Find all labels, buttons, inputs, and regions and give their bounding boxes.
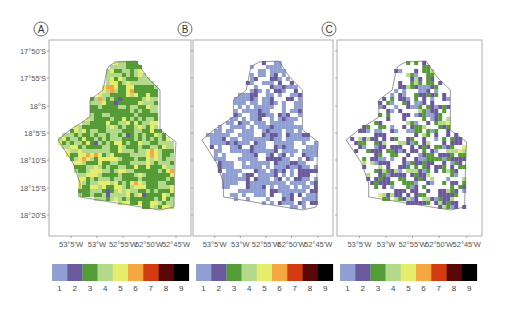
raster-cell-class-3 — [422, 65, 426, 69]
raster-cell-class-5 — [66, 149, 70, 153]
raster-cell-class-1 — [262, 141, 266, 145]
raster-cell-class-2 — [414, 193, 418, 197]
raster-cell-class-3 — [86, 181, 90, 185]
raster-cell-class-3 — [106, 109, 110, 113]
raster-cell-class-1 — [274, 69, 278, 73]
raster-cell-class-1 — [406, 129, 410, 133]
legend-swatch-6 — [272, 264, 288, 281]
raster-cell-class-5 — [462, 145, 466, 149]
raster-cell-class-2 — [378, 149, 382, 153]
raster-cell-class-3 — [402, 177, 406, 181]
raster-cell-class-4 — [82, 149, 86, 153]
raster-cell-class-3 — [150, 181, 154, 185]
raster-cell-class-3 — [130, 165, 134, 169]
raster-cell-class-4 — [130, 109, 134, 113]
raster-cell-class-4 — [106, 81, 110, 85]
raster-cell-class-3 — [122, 97, 126, 101]
raster-cell-class-1 — [310, 197, 314, 201]
raster-cell-class-3 — [94, 193, 98, 197]
raster-cell-class-4 — [166, 161, 170, 165]
raster-cell-class-1 — [306, 165, 310, 169]
raster-cell-class-1 — [258, 165, 262, 169]
raster-cell-class-2 — [402, 113, 406, 117]
raster-cell-class-4 — [438, 201, 442, 205]
raster-cell-class-3 — [146, 89, 150, 93]
raster-cell-class-3 — [138, 105, 142, 109]
legend-label: 9 — [179, 284, 184, 293]
raster-cell-class-3 — [150, 133, 154, 137]
raster-cell-class-1 — [286, 117, 290, 121]
raster-cell-class-2 — [298, 193, 302, 197]
raster-cell-class-1 — [278, 133, 282, 137]
raster-cell-class-3 — [86, 125, 90, 129]
raster-cell-class-4 — [118, 173, 122, 177]
x-tick-label: 53°W — [88, 240, 107, 249]
raster-cell-class-3 — [114, 113, 118, 117]
raster-cell-class-2 — [278, 81, 282, 85]
raster-cell-class-2 — [406, 137, 410, 141]
raster-cell-class-1 — [306, 149, 310, 153]
raster-cell-class-4 — [122, 81, 126, 85]
raster-cell-class-1 — [410, 105, 414, 109]
raster-cell-class-1 — [230, 169, 234, 173]
x-tick-label: 52°50'W — [277, 240, 306, 249]
raster-cell-class-1 — [250, 77, 254, 81]
raster-cell-class-1 — [310, 193, 314, 197]
raster-cell-class-3 — [114, 77, 118, 81]
raster-cell-class-2 — [374, 177, 378, 181]
raster-cell-class-3 — [426, 73, 430, 77]
raster-cell-class-1 — [238, 105, 242, 109]
raster-cell-class-3 — [442, 169, 446, 173]
raster-cell-class-1 — [250, 165, 254, 169]
raster-cell-class-3 — [422, 145, 426, 149]
raster-cell-class-2 — [374, 149, 378, 153]
raster-cell-class-4 — [90, 101, 94, 105]
raster-cell-class-5 — [170, 185, 174, 189]
raster-cell-class-1 — [362, 145, 366, 149]
raster-cell-class-1 — [210, 137, 214, 141]
raster-cell-class-1 — [238, 133, 242, 137]
raster-cell-class-5 — [110, 153, 114, 157]
raster-cell-class-1 — [290, 149, 294, 153]
raster-cell-class-4 — [110, 73, 114, 77]
raster-cell-class-3 — [122, 157, 126, 161]
raster-cell-class-4 — [146, 117, 150, 121]
raster-cell-class-4 — [142, 149, 146, 153]
raster-cell-class-4 — [358, 137, 362, 141]
raster-cell-class-1 — [462, 189, 466, 193]
raster-cell-class-2 — [142, 193, 146, 197]
raster-cell-class-2 — [254, 89, 258, 93]
raster-cell-class-6 — [110, 85, 114, 89]
raster-cell-class-1 — [298, 157, 302, 161]
raster-cell-class-1 — [410, 141, 414, 145]
raster-cell-class-3 — [426, 201, 430, 205]
raster-cell-class-1 — [302, 141, 306, 145]
raster-cell-class-3 — [410, 85, 414, 89]
legend-swatch-8 — [158, 264, 174, 281]
raster-cell-class-1 — [314, 197, 318, 201]
raster-cell-class-2 — [402, 165, 406, 169]
raster-cell-class-2 — [450, 181, 454, 185]
raster-cell-class-3 — [114, 109, 118, 113]
raster-cell-class-6 — [150, 153, 154, 157]
raster-cell-class-4 — [122, 145, 126, 149]
raster-cell-class-5 — [170, 173, 174, 177]
raster-cell-class-4 — [114, 125, 118, 129]
raster-cell-class-4 — [166, 185, 170, 189]
raster-cell-class-5 — [74, 129, 78, 133]
raster-cell-class-4 — [450, 197, 454, 201]
raster-cell-class-1 — [298, 181, 302, 185]
raster-cell-class-2 — [254, 153, 258, 157]
raster-cell-class-4 — [126, 69, 130, 73]
raster-cell-class-3 — [94, 177, 98, 181]
raster-cell-class-1 — [214, 153, 218, 157]
raster-cell-class-1 — [222, 133, 226, 137]
raster-cell-class-3 — [114, 173, 118, 177]
raster-cell-class-5 — [74, 145, 78, 149]
raster-cell-class-4 — [114, 137, 118, 141]
raster-cell-class-1 — [270, 169, 274, 173]
raster-cell-class-1 — [302, 205, 306, 209]
raster-cell-class-4 — [146, 81, 150, 85]
raster-cell-class-2 — [442, 161, 446, 165]
raster-cell-class-5 — [154, 149, 158, 153]
